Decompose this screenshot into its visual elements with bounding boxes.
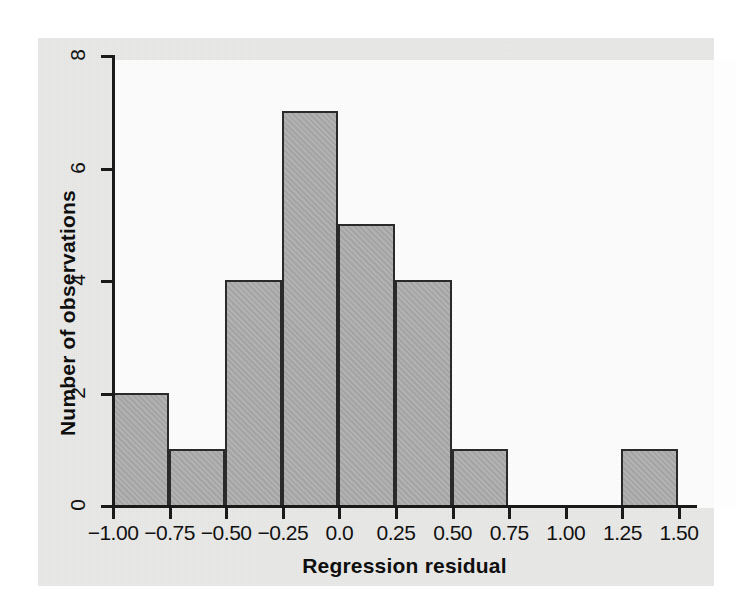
x-axis-tick: [112, 508, 115, 519]
histogram-bar: [338, 224, 395, 507]
y-axis-tick: [101, 55, 113, 58]
histogram-bar: [452, 449, 509, 507]
histogram-bar: [169, 449, 226, 507]
y-axis-tick: [101, 280, 113, 283]
x-axis-tick: [508, 508, 511, 519]
x-axis-tick: [452, 508, 455, 519]
histogram-bar: [395, 280, 452, 507]
histogram-bar: [225, 280, 282, 507]
x-axis-tick: [338, 508, 341, 519]
histogram-screenshot: 02468 −1.00−0.75−0.50−0.250.00.250.500.7…: [0, 0, 752, 616]
x-axis-tick: [282, 508, 285, 519]
x-axis-tick: [565, 508, 568, 519]
histogram-bar: [621, 449, 678, 507]
x-axis-tick: [678, 508, 681, 519]
y-axis-tick: [101, 168, 113, 171]
y-axis-tick-label: 0: [66, 488, 90, 522]
x-axis-tick-label: 1.50: [644, 521, 714, 545]
y-axis-title: Number of observations: [56, 190, 80, 436]
x-axis-tick: [395, 508, 398, 519]
x-axis-tick: [225, 508, 228, 519]
x-axis-tick: [169, 508, 172, 519]
histogram-bar: [282, 111, 339, 507]
y-axis-tick: [101, 393, 113, 396]
y-axis-tick-label: 8: [66, 38, 90, 72]
x-axis-title: Regression residual: [112, 554, 697, 578]
x-axis-tick: [621, 508, 624, 519]
x-axis-line: [112, 505, 697, 508]
y-axis-tick-label: 6: [66, 151, 90, 185]
histogram-bar: [112, 393, 169, 508]
